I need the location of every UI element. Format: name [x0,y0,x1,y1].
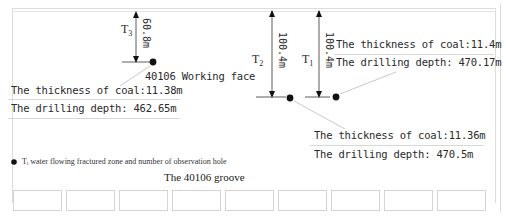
t3-coal-thickness: The thickness of coal:11.38m [11,84,182,96]
t2-drilling-depth: The drilling depth: 470.5m [314,148,473,160]
t1-label: T1 [302,52,313,68]
t2-coal-thickness: The thickness of coal:11.36m [314,129,485,141]
groove-box [119,190,168,211]
t1-height-label: 100.4m [324,32,335,68]
groove-box [437,190,486,211]
hole-t3-dot [150,59,157,66]
t3-label: T3 [121,22,132,38]
groove-box [384,190,433,211]
groove-boxes [13,190,486,211]
groove-title: The 40106 groove [164,171,245,183]
t2-arrow [256,10,345,129]
t1-divider [334,54,494,55]
legend-dot [11,159,17,165]
working-face-label: 40106 Working face [145,70,255,82]
groove-box [225,190,274,211]
groove-box [13,190,62,211]
groove-box [66,190,115,211]
hole-t2-dot [287,95,294,102]
groove-box [331,190,380,211]
t3-divider-bottom [8,118,180,119]
t3-drilling-depth: The drilling depth: 462.65m [11,102,176,114]
legend-text: Tᵢ water flowing fractured zone and numb… [22,157,227,166]
t3-height-label: 60.8m [141,18,152,48]
groove-box [172,190,221,211]
t1-coal-thickness: The thickness of coal:11.4m [336,38,501,50]
hole-t1-dot [333,94,340,101]
t3-divider [8,99,180,100]
t2-height-label: 100.4m [277,32,288,68]
t1-drilling-depth: The drilling depth: 470.17m [336,56,501,68]
groove-box [278,190,327,211]
t2-label: T2 [252,52,263,68]
t2-divider [310,145,484,146]
